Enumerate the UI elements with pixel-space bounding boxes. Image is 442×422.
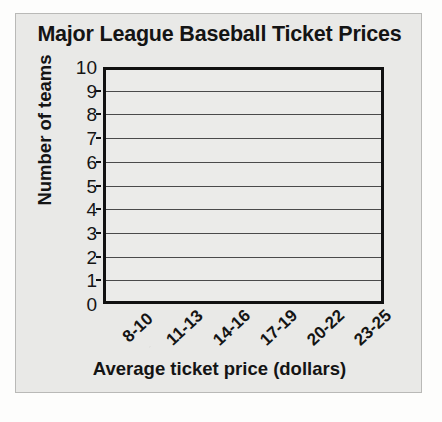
chart-title: Major League Baseball Ticket Prices <box>26 22 413 47</box>
x-axis-tick-label: 8-10 <box>119 309 158 347</box>
gridline <box>106 91 381 92</box>
y-axis-tick-mark <box>96 90 101 92</box>
y-axis-tick-label: 0 <box>86 295 97 314</box>
gridline <box>106 233 381 234</box>
y-axis-tick-mark <box>96 279 101 281</box>
y-axis-tick-mark <box>96 161 101 163</box>
gridline <box>106 280 381 281</box>
y-axis-tick-mark <box>96 137 101 139</box>
y-axis-tick-labels: 109876543210 <box>56 67 101 304</box>
gridline <box>106 209 381 210</box>
y-axis-tick-mark <box>96 113 101 115</box>
plot-area <box>103 67 384 304</box>
y-axis-tick-mark <box>96 232 101 234</box>
x-axis-tick-label: 23-25 <box>350 306 395 350</box>
y-axis-title: Number of teams <box>34 50 56 210</box>
y-axis-tick-label: 10 <box>76 58 97 77</box>
y-axis-tick-mark <box>96 185 101 187</box>
scanned-page: Major League Baseball Ticket Prices Numb… <box>0 0 442 422</box>
gridline <box>106 114 381 115</box>
gridline <box>106 162 381 163</box>
gridline <box>106 257 381 258</box>
y-axis-tick-mark <box>96 208 101 210</box>
chart-figure: Major League Baseball Ticket Prices Numb… <box>15 13 422 393</box>
y-axis-tick-mark <box>96 256 101 258</box>
x-axis-title: Average ticket price (dollars) <box>26 358 413 380</box>
x-axis-tick-label: 14-16 <box>209 306 254 350</box>
x-axis-tick-label: 17-19 <box>256 306 301 350</box>
gridline <box>106 186 381 187</box>
gridline <box>106 138 381 139</box>
x-axis-tick-label: 20-22 <box>303 306 348 350</box>
x-axis-tick-labels: 8-1011-1314-1617-1920-2223-25 <box>103 304 384 366</box>
x-axis-tick-label: 11-13 <box>163 306 208 350</box>
